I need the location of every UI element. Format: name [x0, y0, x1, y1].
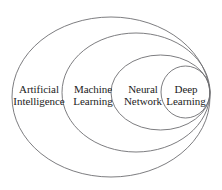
label-deep-learning-line1: Deep	[163, 83, 209, 95]
label-machine-learning-line1: Machine	[66, 83, 120, 95]
label-machine-learning: Machine Learning	[66, 83, 120, 108]
venn-diagram-figure: Artificial Intelligence Machine Learning…	[0, 0, 222, 190]
label-deep-learning-line2: Learning	[163, 95, 209, 107]
label-neural-network-line2: Network	[119, 95, 167, 107]
label-artificial-intelligence: Artificial Intelligence	[8, 83, 70, 108]
label-neural-network-line1: Neural	[119, 83, 167, 95]
label-neural-network: Neural Network	[119, 83, 167, 108]
label-deep-learning: Deep Learning	[163, 83, 209, 108]
label-artificial-intelligence-line2: Intelligence	[8, 95, 70, 107]
label-artificial-intelligence-line1: Artificial	[8, 83, 70, 95]
label-machine-learning-line2: Learning	[66, 95, 120, 107]
